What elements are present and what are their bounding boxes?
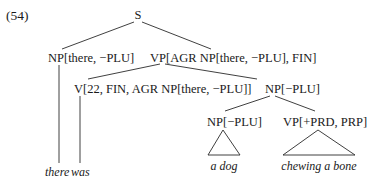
node-vp-top: VP[AGR NP[there, −PLU], FIN] bbox=[150, 51, 316, 65]
node-np-dog: NP[−PLU] bbox=[207, 115, 262, 129]
node-v: V[22, FIN, AGR NP[there, −PLU]] bbox=[74, 82, 252, 96]
edge-np-vpprd bbox=[275, 96, 315, 111]
triangle-a-dog bbox=[208, 130, 240, 155]
syntax-tree: (54) S NP[there, −PLU] VP[AGR NP[there, … bbox=[0, 0, 375, 181]
leaf-a-dog: a dog bbox=[211, 159, 238, 173]
edge-np-npdog bbox=[225, 96, 270, 111]
node-vp-prd: VP[+PRD, PRP] bbox=[283, 115, 367, 129]
edge-vp-np bbox=[165, 64, 257, 79]
leaf-was: was bbox=[71, 165, 90, 179]
example-number: (54) bbox=[6, 8, 29, 23]
node-s: S bbox=[135, 8, 142, 22]
node-np-obj: NP[−PLU] bbox=[265, 82, 320, 96]
edge-vp-v bbox=[88, 64, 160, 79]
edge-s-np bbox=[62, 22, 134, 49]
leaf-chewing-a-bone: chewing a bone bbox=[281, 159, 357, 173]
node-np-there: NP[there, −PLU] bbox=[48, 51, 134, 65]
leaf-there: there bbox=[45, 165, 70, 179]
edge-s-vp bbox=[142, 22, 211, 49]
triangle-chewing bbox=[283, 130, 355, 155]
